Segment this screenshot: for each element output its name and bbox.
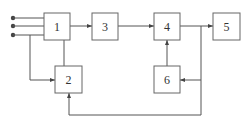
connector-feedback-to-2 <box>69 93 201 115</box>
block-diagram: 1 2 3 4 5 6 <box>0 0 249 126</box>
arrowhead-icon <box>149 24 154 28</box>
connector-input-to-2 <box>30 35 55 80</box>
block-1-label: 1 <box>54 20 60 34</box>
arrowhead-icon <box>180 78 185 82</box>
arrowhead-icon <box>87 24 92 28</box>
block-1: 1 <box>44 13 70 40</box>
block-5: 5 <box>213 13 240 40</box>
arrowhead-icon <box>50 78 55 82</box>
block-3-label: 3 <box>102 20 108 34</box>
block-4: 4 <box>154 13 180 40</box>
arrowhead-icon <box>208 24 213 28</box>
block-6: 6 <box>154 66 180 93</box>
arrowhead-icon <box>165 40 169 45</box>
block-2-label: 2 <box>66 73 72 87</box>
block-6-label: 6 <box>164 73 170 87</box>
block-2: 2 <box>55 66 82 93</box>
arrowhead-icon <box>67 93 71 98</box>
block-3: 3 <box>92 13 118 40</box>
block-5-label: 5 <box>224 20 230 34</box>
block-4-label: 4 <box>164 20 170 34</box>
